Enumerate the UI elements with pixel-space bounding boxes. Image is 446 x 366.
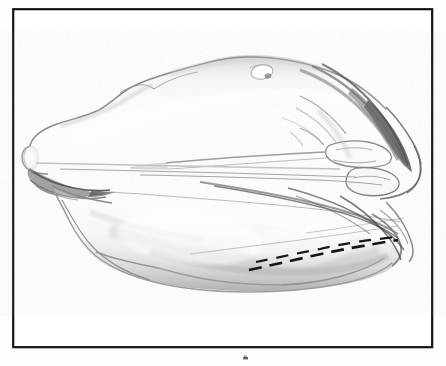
illustration-canvas bbox=[0, 0, 446, 366]
figure-page: Anatomical specimen illustration Elongat… bbox=[0, 0, 446, 366]
